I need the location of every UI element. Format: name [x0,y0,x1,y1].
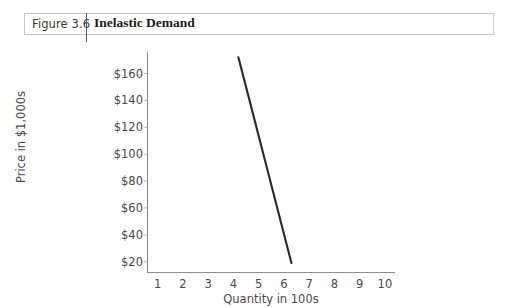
y-axis-tick-label: $60 [121,201,143,215]
chart-plot-svg [0,0,518,308]
x-axis-tick-label: 7 [305,277,312,291]
y-axis-tick-label: $100 [114,147,143,161]
x-axis-tick-label: 1 [154,277,161,291]
y-axis-tick-label: $20 [121,255,143,269]
x-axis-tick-label: 5 [255,277,262,291]
x-axis-tick-label: 9 [356,277,363,291]
y-axis-tick-label: $160 [114,67,143,81]
y-axis-tick-label: $40 [121,228,143,242]
x-axis-tick-label: 3 [204,277,211,291]
x-axis-tick-label: 10 [378,277,393,291]
demand-curve [238,57,291,263]
y-axis-title: Price in $1,000s [14,82,28,192]
y-axis-tick-label: $140 [114,93,143,107]
y-axis-tick-label: $120 [114,120,143,134]
y-axis-tick-labels: $20$40$60$80$100$120$140$160 [105,0,143,308]
x-axis-title: Quantity in 100s [147,292,395,306]
x-axis-tick-label: 4 [230,277,237,291]
x-axis-tick-label: 6 [280,277,287,291]
x-axis-tick-label: 8 [331,277,338,291]
demand-chart: $20$40$60$80$100$120$140$160 12345678910… [0,0,518,308]
y-axis-tick-label: $80 [121,174,143,188]
demand-curve-layer [238,57,291,263]
x-axis-tick-label: 2 [179,277,186,291]
